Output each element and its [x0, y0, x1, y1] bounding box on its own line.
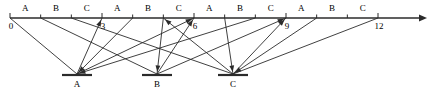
axis-tick-label-3: 3: [101, 22, 106, 31]
axis-tick-label-9: 9: [285, 22, 290, 31]
axis-slot-label-3: A: [114, 4, 121, 13]
node-label-C: C: [230, 80, 236, 89]
axis-slot-label-10: B: [329, 4, 335, 13]
edge-arrow-icon: [229, 65, 234, 72]
node-label-B: B: [154, 80, 160, 89]
node-label-A: A: [74, 80, 81, 89]
axis-slot-label-5: C: [176, 4, 182, 13]
edge-line: [233, 18, 317, 74]
axis-tick-label-6: 6: [193, 22, 198, 31]
axis-slot-label-4: B: [145, 4, 151, 13]
axis-tick-label-12: 12: [375, 22, 384, 31]
axis-slot-label-7: B: [237, 4, 243, 13]
edge-arrow-icon: [156, 65, 161, 72]
time-axis-group: [10, 13, 427, 21]
axis-slot-label-2: C: [84, 4, 90, 13]
axis-slot-label-9: A: [298, 4, 305, 13]
edge-line: [10, 18, 77, 74]
edge-line: [233, 18, 286, 74]
edge-line: [233, 18, 378, 74]
schedule-diagram-svg: [0, 0, 437, 90]
axis-slot-label-1: B: [53, 4, 59, 13]
axis-arrow-icon: [419, 15, 427, 22]
diagram-canvas: 036912ABCABCABCABCABC: [0, 0, 437, 90]
axis-slot-label-0: A: [22, 4, 29, 13]
axis-slot-label-6: A: [206, 4, 213, 13]
edge-line: [41, 18, 157, 74]
axis-tick-label-0: 0: [9, 22, 14, 31]
axis-slot-label-11: C: [360, 4, 366, 13]
axis-slot-label-8: C: [268, 4, 274, 13]
